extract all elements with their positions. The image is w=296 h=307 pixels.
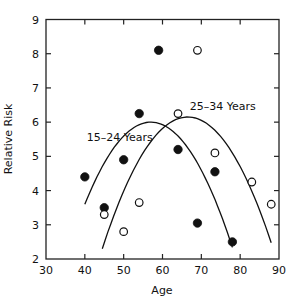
y-tick-label: 9 [32,14,39,27]
filled-point [193,219,201,227]
open-point [211,149,219,157]
y-tick-label: 5 [32,150,39,163]
filled-point [228,238,236,246]
x-tick-label: 80 [233,264,247,277]
open-point [120,228,128,236]
y-tick-label: 3 [32,219,39,232]
x-tick-label: 50 [117,264,131,277]
x-tick-label: 90 [272,264,286,277]
open-point [248,178,256,186]
filled-point [135,109,143,117]
x-tick-label: 40 [78,264,92,277]
y-tick-label: 4 [32,185,39,198]
x-tick-label: 70 [194,264,208,277]
filled-point [174,145,182,153]
x-axis-label: Age [151,284,173,297]
data-points [81,46,275,246]
open-point [100,211,108,219]
filled-point [154,46,162,54]
x-axis: 30405060708090 [39,20,286,278]
open-point [174,110,182,118]
y-tick-label: 2 [32,253,39,266]
filled-point [81,173,89,181]
curve-label: 25–34 Years [190,100,256,113]
curve-label: 15–24 Years [87,131,153,144]
filled-point [211,168,219,176]
y-tick-label: 7 [32,82,39,95]
x-tick-label: 60 [156,264,170,277]
y-tick-label: 6 [32,116,39,129]
filled-point [119,156,127,164]
open-point [267,200,275,208]
open-point [194,46,202,54]
relative-risk-chart: 30405060708090 23456789 Age Relative Ris… [0,0,296,307]
y-tick-label: 8 [32,48,39,61]
plot-frame [46,20,279,260]
y-axis-label: Relative Risk [2,103,15,174]
open-point [135,199,143,207]
x-tick-label: 30 [39,264,53,277]
